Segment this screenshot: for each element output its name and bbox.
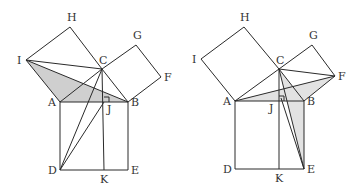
point-label-j: J xyxy=(268,102,273,115)
point-label-d: D xyxy=(48,164,57,177)
point-label-f: F xyxy=(338,70,346,83)
segment-ih xyxy=(201,27,244,59)
point-label-i: I xyxy=(17,54,21,67)
segment-gf xyxy=(136,45,161,77)
segment-gf xyxy=(312,45,335,76)
segment-cf xyxy=(279,69,335,76)
right-figure: HICGFAJBDKE xyxy=(192,11,346,185)
segment-ck xyxy=(102,69,104,170)
point-label-e: E xyxy=(307,163,315,176)
segment-hc xyxy=(244,27,279,69)
point-label-k: K xyxy=(275,172,284,185)
point-label-j: J xyxy=(106,103,111,116)
point-label-b: B xyxy=(307,95,315,108)
point-label-g: G xyxy=(133,29,142,42)
point-label-b: B xyxy=(131,96,139,109)
point-label-i: I xyxy=(192,53,196,66)
point-label-h: H xyxy=(67,11,77,24)
point-label-f: F xyxy=(164,71,172,84)
point-label-k: K xyxy=(100,173,109,186)
pythagorean-proof-diagram: HICGFAJBDKE HICGFAJBDKE xyxy=(0,0,361,196)
point-label-a: A xyxy=(222,95,232,108)
point-label-h: H xyxy=(240,11,250,24)
segment-ih xyxy=(26,27,70,60)
point-label-e: E xyxy=(131,164,139,177)
segment-dj xyxy=(60,102,104,170)
point-label-g: G xyxy=(309,29,318,42)
left-figure: HICGFAJBDKE xyxy=(17,11,172,186)
point-label-a: A xyxy=(47,96,57,109)
point-label-c: C xyxy=(99,54,107,67)
segment-hc xyxy=(70,27,102,69)
point-label-c: C xyxy=(276,54,284,67)
point-label-d: D xyxy=(223,163,232,176)
